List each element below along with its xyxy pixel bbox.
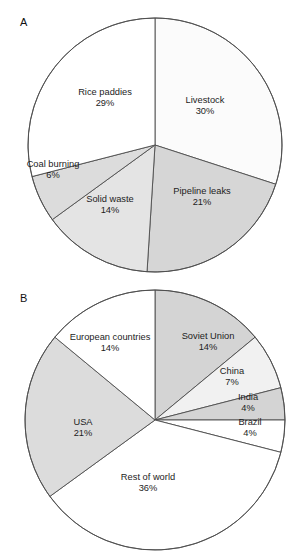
- pie-chart-figure: A B Livestock30%Pipeline leaks21%Solid w…: [0, 0, 298, 558]
- pie-slices-canvas: [0, 0, 298, 558]
- pie-chart-a: [28, 18, 282, 272]
- pie-chart-b: [25, 290, 285, 550]
